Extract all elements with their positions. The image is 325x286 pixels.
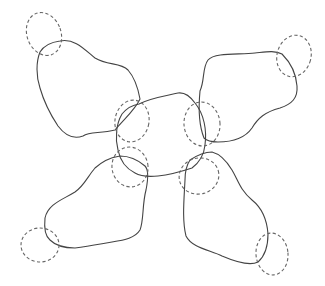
lobed-blob-diagram	[0, 0, 325, 286]
background	[0, 0, 325, 286]
